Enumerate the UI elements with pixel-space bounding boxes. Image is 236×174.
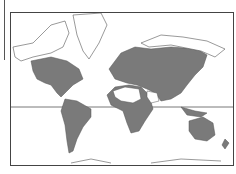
southeast-asia-islands bbox=[181, 107, 207, 117]
world-map bbox=[11, 13, 233, 165]
arctic-canada bbox=[13, 21, 69, 61]
australia bbox=[189, 117, 215, 141]
new-zealand bbox=[222, 139, 229, 149]
south-america bbox=[61, 99, 91, 153]
map-frame: World distribution map bbox=[10, 12, 234, 166]
antarctica bbox=[71, 159, 221, 163]
north-america bbox=[31, 57, 83, 97]
greenland bbox=[73, 13, 107, 59]
left-edge-line bbox=[0, 0, 5, 60]
